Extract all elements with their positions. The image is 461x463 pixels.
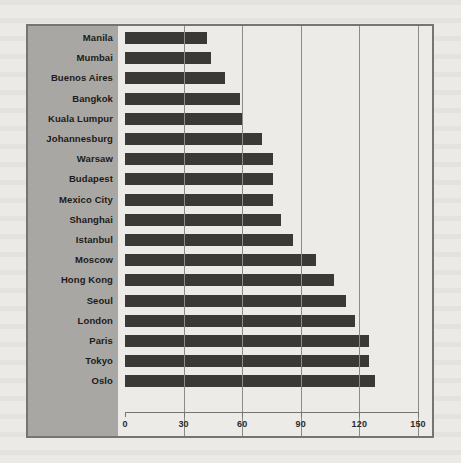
category-label: Moscow xyxy=(29,254,113,266)
category-label: Oslo xyxy=(29,375,113,387)
chart-row: Seoul xyxy=(28,294,432,314)
bar xyxy=(125,72,225,84)
category-label: Budapest xyxy=(29,173,113,185)
bar xyxy=(125,274,334,286)
bar xyxy=(125,153,273,165)
bar xyxy=(125,214,281,226)
chart-row: Warsaw xyxy=(28,152,432,172)
category-label: Tokyo xyxy=(29,355,113,367)
tick-mark xyxy=(359,412,360,417)
chart-row: Paris xyxy=(28,334,432,354)
chart-row: Oslo xyxy=(28,374,432,394)
category-label: Seoul xyxy=(29,295,113,307)
gridline xyxy=(418,26,419,436)
bar xyxy=(125,173,273,185)
bar xyxy=(125,295,346,307)
chart-row: Hong Kong xyxy=(28,273,432,293)
bar-chart: ManilaMumbaiBuenos AiresBangkokKuala Lum… xyxy=(26,24,434,438)
bar xyxy=(125,355,369,367)
category-label: Shanghai xyxy=(29,214,113,226)
chart-row: Kuala Lumpur xyxy=(28,112,432,132)
x-tick-label: 150 xyxy=(410,419,426,429)
tick-mark xyxy=(242,412,243,417)
category-label: London xyxy=(29,315,113,327)
chart-row: Johannesburg xyxy=(28,132,432,152)
category-label: Paris xyxy=(29,335,113,347)
tick-mark xyxy=(184,412,185,417)
bar xyxy=(125,335,369,347)
category-label: Istanbul xyxy=(29,234,113,246)
gridline xyxy=(301,26,302,436)
bar xyxy=(125,52,211,64)
chart-row: Buenos Aires xyxy=(28,71,432,91)
gridline xyxy=(242,26,243,436)
chart-row: Manila xyxy=(28,31,432,51)
chart-row: Shanghai xyxy=(28,213,432,233)
x-tick-label: 30 xyxy=(178,419,188,429)
tick-mark xyxy=(418,412,419,417)
tick-mark xyxy=(301,412,302,417)
category-label: Warsaw xyxy=(29,153,113,165)
bar xyxy=(125,375,375,387)
gridline xyxy=(359,26,360,436)
bar xyxy=(125,254,316,266)
chart-row: Moscow xyxy=(28,253,432,273)
chart-row: Istanbul xyxy=(28,233,432,253)
bar xyxy=(125,194,273,206)
x-tick-label: 90 xyxy=(296,419,306,429)
gridline xyxy=(184,26,185,436)
category-label: Mexico City xyxy=(29,194,113,206)
tick-mark xyxy=(125,412,126,417)
chart-row: Tokyo xyxy=(28,354,432,374)
bar xyxy=(125,234,293,246)
chart-row: Budapest xyxy=(28,172,432,192)
category-label: Kuala Lumpur xyxy=(29,113,113,125)
bar xyxy=(125,315,355,327)
chart-row: Mumbai xyxy=(28,51,432,71)
category-label: Manila xyxy=(29,32,113,44)
x-tick-label: 120 xyxy=(352,419,368,429)
x-tick-label: 0 xyxy=(122,419,127,429)
chart-row: Mexico City xyxy=(28,193,432,213)
category-label: Bangkok xyxy=(29,93,113,105)
x-tick-label: 60 xyxy=(237,419,247,429)
bar xyxy=(125,32,207,44)
chart-row: London xyxy=(28,314,432,334)
category-label: Buenos Aires xyxy=(29,72,113,84)
category-label: Johannesburg xyxy=(29,133,113,145)
chart-row: Bangkok xyxy=(28,92,432,112)
x-axis-line xyxy=(125,412,419,413)
category-label: Hong Kong xyxy=(29,274,113,286)
category-label: Mumbai xyxy=(29,52,113,64)
